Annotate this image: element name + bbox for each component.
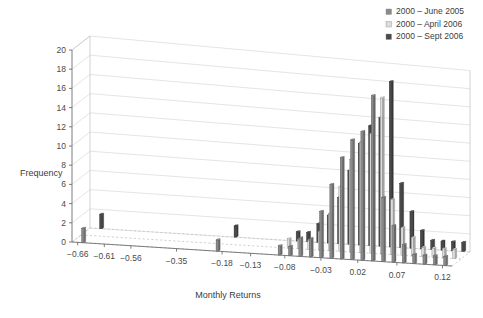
- x-tick-label: −0.08: [274, 262, 296, 272]
- y-tick-label: 10: [57, 141, 67, 151]
- y-tick-label: 2: [61, 218, 66, 228]
- x-axis-title: Monthly Returns: [195, 290, 261, 300]
- legend-swatch: [386, 9, 392, 15]
- legend-swatch: [386, 22, 392, 28]
- legend-label: 2000 – Sept 2006: [396, 31, 463, 41]
- y-axis-title: Frequency: [20, 168, 63, 178]
- y-tick-label: 18: [57, 64, 67, 74]
- y-tick-label: 20: [57, 45, 67, 55]
- y-tick-label: 0: [61, 237, 66, 247]
- y-tick-label: 6: [61, 179, 66, 189]
- histogram-chart: 02468101214161820 −0.66−0.61−0.56−0.35−0…: [0, 0, 483, 318]
- legend-label: 2000 – June 2005: [396, 6, 464, 16]
- x-tick-label: −0.35: [166, 256, 188, 266]
- legend-label: 2000 – April 2006: [396, 19, 462, 29]
- x-tick-label: 0.02: [349, 267, 366, 277]
- x-tick-label: 0.07: [389, 270, 406, 280]
- x-tick-label: −0.66: [67, 249, 89, 259]
- y-tick-label: 4: [61, 199, 66, 209]
- x-tick-label: −0.18: [211, 258, 233, 268]
- y-tick-label: 14: [57, 103, 67, 113]
- x-tick-label: −0.56: [120, 253, 142, 263]
- x-tick-label: −0.13: [240, 260, 262, 270]
- x-tick-label: 0.12: [434, 272, 451, 282]
- x-tick-label: −0.03: [310, 265, 332, 275]
- chart-legend: 2000 – June 20052000 – April 20062000 – …: [386, 6, 464, 41]
- legend-swatch: [386, 34, 392, 40]
- bars-layer: [82, 81, 466, 266]
- y-tick-label: 16: [57, 83, 67, 93]
- y-tick-label: 12: [57, 122, 67, 132]
- y-axis-ticks: 02468101214161820: [57, 45, 72, 247]
- chart-canvas: 02468101214161820 −0.66−0.61−0.56−0.35−0…: [0, 0, 483, 318]
- x-tick-label: −0.61: [94, 251, 116, 261]
